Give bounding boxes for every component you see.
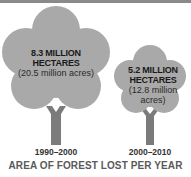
acres-value: (12.8 million (115, 85, 191, 95)
tree-2000-2010-trunk (141, 109, 159, 145)
hectares-unit: HECTARES (6, 58, 106, 68)
period-label-1990-2000: 1990–2000 (26, 147, 86, 157)
chart-title: AREA OF FOREST LOST PER YEAR (0, 160, 191, 171)
tree-1990-2000-trunk (46, 106, 66, 145)
period-label-2000-2010: 2000–2010 (120, 147, 180, 157)
acres-value: (20.5 million acres) (6, 68, 106, 78)
hectares-unit: HECTARES (115, 75, 191, 85)
tree-2000-2010-label: 5.2 MILLION HECTARES (12.8 million acres… (115, 65, 191, 105)
hectares-value: 5.2 MILLION (115, 65, 191, 75)
tree-1990-2000-label: 8.3 MILLION HECTARES (20.5 million acres… (6, 48, 106, 78)
hectares-value: 8.3 MILLION (6, 48, 106, 58)
acres-unit: acres) (115, 95, 191, 105)
